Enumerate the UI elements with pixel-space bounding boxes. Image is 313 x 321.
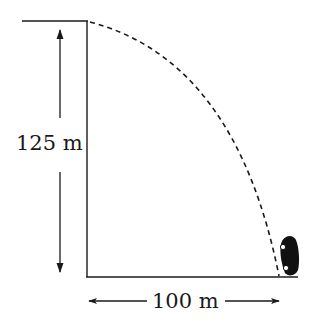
dashed-trajectory xyxy=(90,22,279,276)
car-icon xyxy=(280,236,299,275)
height-label: 125 m xyxy=(16,131,83,155)
distance-label: 100 m xyxy=(152,289,219,313)
projectile-diagram: 125 m 100 m xyxy=(0,0,313,321)
